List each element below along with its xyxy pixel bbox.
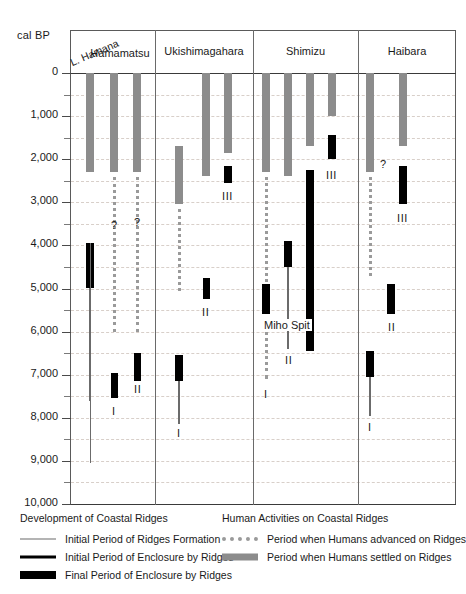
y-axis-tick-major — [62, 73, 71, 74]
y-axis-tick-minor — [64, 224, 70, 225]
legend-title-right: Human Activities on Coastal Ridges — [222, 512, 462, 524]
gridline — [71, 461, 455, 462]
y-axis-tick-label: 2,000 — [30, 151, 58, 163]
y-axis-tick-minor — [64, 267, 70, 268]
axis-bottom-line — [70, 504, 456, 505]
settled-bar — [328, 73, 336, 116]
y-axis-tick-minor — [64, 95, 70, 96]
y-axis-tick-minor — [64, 181, 70, 182]
y-axis-tick-label: 4,000 — [30, 237, 58, 249]
column-divider-3 — [358, 30, 359, 505]
gridline — [71, 375, 455, 376]
gridline — [71, 267, 455, 268]
miho-spit-label: Miho Spit — [262, 319, 312, 331]
gridline — [71, 439, 455, 440]
y-axis-tick-minor — [64, 396, 70, 397]
y-axis-tick-minor — [64, 439, 70, 440]
ridge-label-II: II — [202, 306, 209, 318]
legend-item-final-enclosure: Final Period of Enclosure by Ridges — [20, 567, 250, 582]
legend-swatch-final-enclosure — [20, 569, 56, 581]
y-axis-tick-minor — [64, 310, 70, 311]
formation-line — [90, 243, 91, 463]
ridge-label-III: III — [397, 212, 408, 224]
y-axis-tick-major — [62, 116, 71, 117]
legend-swatch-glyph — [222, 553, 258, 560]
legend-swatch-glyph — [20, 555, 56, 558]
column-header-shimizu: Shimizu — [253, 32, 358, 70]
legend-item-humans-settled: Period when Humans settled on Ridges — [222, 549, 462, 564]
y-axis-tick-label: 10,000 — [24, 496, 58, 508]
gridline — [71, 418, 455, 419]
legend-label: Initial Period of Enclosure by Ridges — [65, 551, 234, 563]
gridline — [71, 224, 455, 225]
settled-bar — [262, 73, 270, 172]
ridge-label-I: I — [112, 405, 116, 417]
y-axis-tick-major — [62, 289, 71, 290]
column-header-haibara: Haibara — [358, 32, 456, 70]
y-axis-tick-minor — [64, 138, 70, 139]
y-axis-tick-major — [62, 504, 71, 505]
settled-bar — [202, 73, 210, 176]
legend-swatch-humans-settled — [222, 551, 258, 563]
gridline — [71, 181, 455, 182]
settled-bar — [175, 146, 183, 204]
y-axis-tick-label: 5,000 — [30, 281, 58, 293]
legend-column-right: Human Activities on Coastal Ridges Perio… — [222, 512, 462, 567]
gridline — [71, 482, 455, 483]
legend-label: Final Period of Enclosure by Ridges — [65, 569, 232, 581]
legend-swatch-humans-advanced — [222, 533, 258, 545]
final-enclosure-bar — [175, 355, 183, 381]
final-enclosure-bar — [111, 373, 118, 399]
final-enclosure-bar — [366, 351, 374, 377]
legend-item-humans-advanced: Period when Humans advanced on Ridges — [222, 531, 462, 546]
legend-swatch-initial-enclosure — [20, 551, 56, 563]
advanced-dotted — [265, 177, 268, 282]
settled-bar — [133, 73, 141, 172]
y-axis-tick-label: 8,000 — [30, 410, 58, 422]
settled-bar — [399, 73, 407, 146]
column-divider-2 — [253, 30, 254, 505]
legend-column-left: Development of Coastal Ridges Initial Pe… — [20, 512, 250, 585]
y-axis-tick-minor — [64, 353, 70, 354]
y-axis-tick-label: 1,000 — [30, 108, 58, 120]
legend-item-initial-formation: Initial Period of Ridges Formation — [20, 531, 250, 546]
y-axis-tick-label: 7,000 — [30, 367, 58, 379]
advanced-dotted — [369, 177, 372, 275]
column-divider-1 — [155, 30, 156, 505]
final-enclosure-bar — [134, 353, 141, 381]
ridge-label-III: III — [326, 169, 337, 181]
legend: Development of Coastal Ridges Initial Pe… — [0, 512, 459, 586]
settled-bar — [306, 73, 314, 146]
y-axis-tick-label: 3,000 — [30, 194, 58, 206]
gridline — [71, 202, 455, 203]
y-axis-tick-label: 9,000 — [30, 453, 58, 465]
settled-bar — [86, 73, 94, 172]
gridline — [71, 353, 455, 354]
settled-bar — [224, 73, 232, 153]
settled-bar — [366, 73, 374, 172]
y-axis-tick-major — [62, 202, 71, 203]
gridline — [71, 396, 455, 397]
uncertainty-marker: ? — [380, 158, 386, 170]
legend-swatch-glyph — [20, 538, 56, 539]
y-axis-tick-major — [62, 332, 71, 333]
column-header-hamamatsu: Hamamatsu — [85, 34, 155, 72]
legend-item-initial-enclosure: Initial Period of Enclosure by Ridges — [20, 549, 250, 564]
ridge-label-II: II — [285, 354, 292, 366]
legend-swatch-glyph — [222, 537, 258, 541]
final-enclosure-bar — [328, 135, 336, 159]
final-enclosure-bar — [224, 166, 232, 183]
advanced-dotted — [136, 177, 139, 331]
final-enclosure-bar — [203, 278, 210, 300]
uncertainty-marker: ? — [134, 216, 140, 228]
y-axis-tick-major — [62, 245, 71, 246]
ridge-label-II: II — [134, 383, 141, 395]
ridge-label-I: I — [368, 421, 372, 433]
advanced-dotted — [113, 177, 116, 331]
ridge-label-I: I — [264, 388, 268, 400]
final-enclosure-bar — [284, 241, 292, 267]
uncertainty-marker: ? — [111, 219, 117, 231]
gridline — [71, 245, 455, 246]
legend-swatch-glyph — [20, 571, 56, 579]
